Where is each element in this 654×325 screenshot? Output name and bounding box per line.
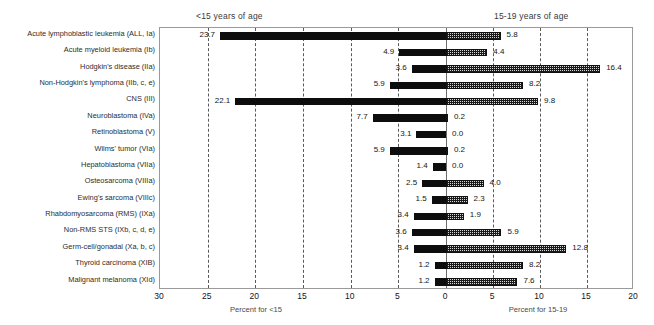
value-label-right: 1.9 xyxy=(470,210,481,219)
axis-label-right: Percent for 15-19 xyxy=(468,305,608,314)
value-label-left: 7.7 xyxy=(356,112,367,121)
category-label: Thyroid carcinoma (XIB) xyxy=(3,258,155,267)
value-label-left: 3.6 xyxy=(396,227,407,236)
category-label: Osteosarcoma (VIIIa) xyxy=(3,176,155,185)
value-label-left: 1.4 xyxy=(417,161,428,170)
category-label: Acute lymphoblastic leukemia (ALL, Ia) xyxy=(3,29,155,38)
table-row: 7.70.2 xyxy=(160,110,632,127)
table-row: 3.412.8 xyxy=(160,241,632,258)
table-row: 4.94.4 xyxy=(160,44,632,61)
bar-right xyxy=(446,49,487,56)
group-header-left: <15 years of age xyxy=(196,11,263,21)
bar-right xyxy=(446,196,468,203)
category-label: Ewing's sarcoma (VIIIc) xyxy=(3,193,155,202)
bar-right xyxy=(446,262,523,269)
bar-left xyxy=(422,180,446,187)
bar-left xyxy=(220,32,446,39)
category-label: Malignant melanoma (XId) xyxy=(3,275,155,284)
bar-left xyxy=(412,65,446,72)
bar-left xyxy=(235,98,446,105)
value-label-right: 9.8 xyxy=(544,96,555,105)
value-label-left: 3.1 xyxy=(400,129,411,138)
value-label-right: 2.3 xyxy=(474,194,485,203)
category-label: Germ-cell/gonadal (Xa, b, c) xyxy=(3,242,155,251)
category-label: CNS (III) xyxy=(3,94,155,103)
bar-right xyxy=(446,245,566,252)
value-label-left: 4.9 xyxy=(383,47,394,56)
value-label-left: 3.4 xyxy=(397,243,408,252)
value-label-right: 0.2 xyxy=(454,112,465,121)
bar-left xyxy=(390,82,446,89)
value-label-left: 3.6 xyxy=(396,63,407,72)
category-label: Wilms' tumor (VIa) xyxy=(3,144,155,153)
table-row: 22.19.8 xyxy=(160,94,632,111)
axis-label-left: Percent for <15 xyxy=(186,305,326,314)
value-label-left: 1.2 xyxy=(418,276,429,285)
tick-right-15: 15 xyxy=(573,291,599,301)
tick-right-20: 20 xyxy=(620,291,646,301)
category-label: Hepatoblastoma (VIIa) xyxy=(3,160,155,169)
tick-left-25: 25 xyxy=(194,291,220,301)
bar-left xyxy=(373,114,446,121)
table-row: 1.40.0 xyxy=(160,159,632,176)
bar-left xyxy=(435,262,446,269)
bar-left xyxy=(399,49,446,56)
plot-area: 23.75.84.94.43.616.45.98.222.19.87.70.23… xyxy=(159,27,633,289)
table-row: 1.27.6 xyxy=(160,274,632,291)
bar-right xyxy=(446,65,600,72)
value-label-left: 1.5 xyxy=(416,194,427,203)
group-header-right: 15-19 years of age xyxy=(494,11,568,21)
bar-right xyxy=(446,114,448,121)
bar-left xyxy=(412,229,446,236)
value-label-right: 0.0 xyxy=(452,129,463,138)
value-label-left: 3.4 xyxy=(397,210,408,219)
category-label: Hodgkin's disease (IIa) xyxy=(3,62,155,71)
value-label-right: 5.9 xyxy=(507,227,518,236)
value-label-right: 8.2 xyxy=(529,79,540,88)
bar-right xyxy=(446,32,501,39)
table-row: 3.65.9 xyxy=(160,225,632,242)
value-label-right: 0.0 xyxy=(452,161,463,170)
tick-left-10: 10 xyxy=(337,291,363,301)
bar-left xyxy=(416,131,446,138)
tick-zero: 0 xyxy=(432,291,458,301)
table-row: 1.28.2 xyxy=(160,257,632,274)
value-label-left: 22.1 xyxy=(215,96,231,105)
bar-right xyxy=(446,180,484,187)
tick-right-5: 5 xyxy=(479,291,505,301)
value-label-left: 5.9 xyxy=(374,79,385,88)
table-row: 5.98.2 xyxy=(160,77,632,94)
bar-left xyxy=(390,147,446,154)
value-label-right: 4.4 xyxy=(493,47,504,56)
tick-left-15: 15 xyxy=(289,291,315,301)
bar-right xyxy=(446,213,464,220)
table-row: 23.75.8 xyxy=(160,28,632,45)
bar-left xyxy=(414,213,446,220)
value-label-right: 16.4 xyxy=(606,63,622,72)
value-label-right: 5.8 xyxy=(507,30,518,39)
category-label: Acute myeloid leukemia (Ib) xyxy=(3,45,155,54)
category-label: Retinoblastoma (V) xyxy=(3,127,155,136)
value-label-right: 12.8 xyxy=(572,243,588,252)
value-label-left: 5.9 xyxy=(374,145,385,154)
value-label-left: 2.5 xyxy=(406,178,417,187)
tick-left-5: 5 xyxy=(384,291,410,301)
value-label-right: 4.0 xyxy=(490,178,501,187)
category-label: Neuroblastoma (IVa) xyxy=(3,111,155,120)
bar-right xyxy=(446,229,501,236)
tick-left-30: 30 xyxy=(146,291,172,301)
category-label: Non-RMS STS (IXb, c, d, e) xyxy=(3,225,155,234)
value-label-right: 7.6 xyxy=(523,276,534,285)
bar-right xyxy=(446,147,448,154)
tick-right-10: 10 xyxy=(526,291,552,301)
table-row: 5.90.2 xyxy=(160,143,632,160)
bar-right xyxy=(446,82,523,89)
table-row: 2.54.0 xyxy=(160,175,632,192)
value-label-right: 8.2 xyxy=(529,260,540,269)
value-label-right: 0.2 xyxy=(454,145,465,154)
bar-left xyxy=(435,278,446,285)
table-row: 3.616.4 xyxy=(160,61,632,78)
table-row: 3.10.0 xyxy=(160,126,632,143)
bar-right xyxy=(446,278,517,285)
table-row: 1.52.3 xyxy=(160,192,632,209)
